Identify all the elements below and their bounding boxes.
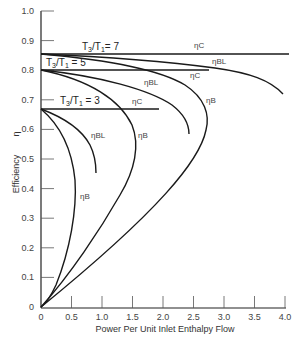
eta-bl-label-5: ηBL	[144, 78, 159, 87]
x-tick-label: 0	[38, 312, 43, 322]
y-tick-label: 0.5	[21, 154, 34, 164]
x-tick-label: 0.5	[65, 312, 78, 322]
y-tick-labels: 0 0.1 0.2 0.3 0.4 0.5 0.6 0.7 0.8 0.9 1.…	[21, 6, 34, 312]
y-tick-label: 0.1	[21, 272, 34, 282]
y-tick-label: 0.6	[21, 124, 34, 134]
y-tick-label: 0.2	[21, 243, 34, 253]
ratio-label-3: T3/T1 = 3	[60, 95, 100, 107]
y-ticks	[41, 11, 54, 277]
eta-bl-curve-3	[41, 109, 96, 173]
y-tick-label: 0.4	[21, 184, 34, 194]
y-axis-label: Efficiency	[11, 154, 21, 193]
y-tick-label: 1.0	[21, 6, 34, 16]
ratio-label-5: T3/T1 = 5	[46, 57, 86, 69]
y-axis-title: Efficiency η	[11, 131, 21, 193]
curve-labels: ηC ηBL ηBL ηC ηB ηC ηBL ηB ηB	[80, 41, 227, 201]
eta-symbol: η	[11, 131, 21, 136]
eta-c-label-5: ηC	[190, 71, 200, 80]
x-tick-labels: 0 0.5 1.0 1.5 2.0 2.5 3.0 3.5 4.0	[38, 312, 291, 322]
x-tick-label: 2.5	[187, 312, 200, 322]
x-tick-label: 3.0	[218, 312, 231, 322]
y-tick-label: 0.9	[21, 36, 34, 46]
y-tick-label: 0.8	[21, 65, 34, 75]
series-ratio-7	[41, 54, 289, 307]
ratio-label-7: T3/T1= 7	[82, 41, 119, 53]
x-tick-label: 1.0	[96, 312, 109, 322]
eta-b-label-3: ηB	[80, 192, 90, 201]
x-tick-label: 3.5	[248, 312, 261, 322]
eta-bl-label-3: ηBL	[91, 131, 106, 140]
eta-b-curve-7	[41, 54, 207, 307]
eta-bl-label-7: ηBL	[212, 57, 227, 66]
y-tick-label: 0.7	[21, 95, 34, 105]
eta-b-label-7: ηB	[206, 96, 216, 105]
x-tick-label: 1.5	[126, 312, 139, 322]
eta-b-label-5: ηB	[138, 131, 148, 140]
x-axis-title: Power Per Unit Inlet Enthalpy Flow	[95, 324, 235, 334]
efficiency-chart: 0 0.1 0.2 0.3 0.4 0.5 0.6 0.7 0.8 0.9 1.…	[0, 0, 303, 343]
y-tick-label: 0.3	[21, 213, 34, 223]
eta-c-label-3: ηC	[132, 97, 142, 106]
x-tick-label: 4.0	[279, 312, 292, 322]
y-tick-label: 0	[29, 302, 34, 312]
x-tick-label: 2.0	[157, 312, 170, 322]
x-ticks	[72, 296, 286, 308]
eta-c-label-7: ηC	[194, 41, 204, 50]
